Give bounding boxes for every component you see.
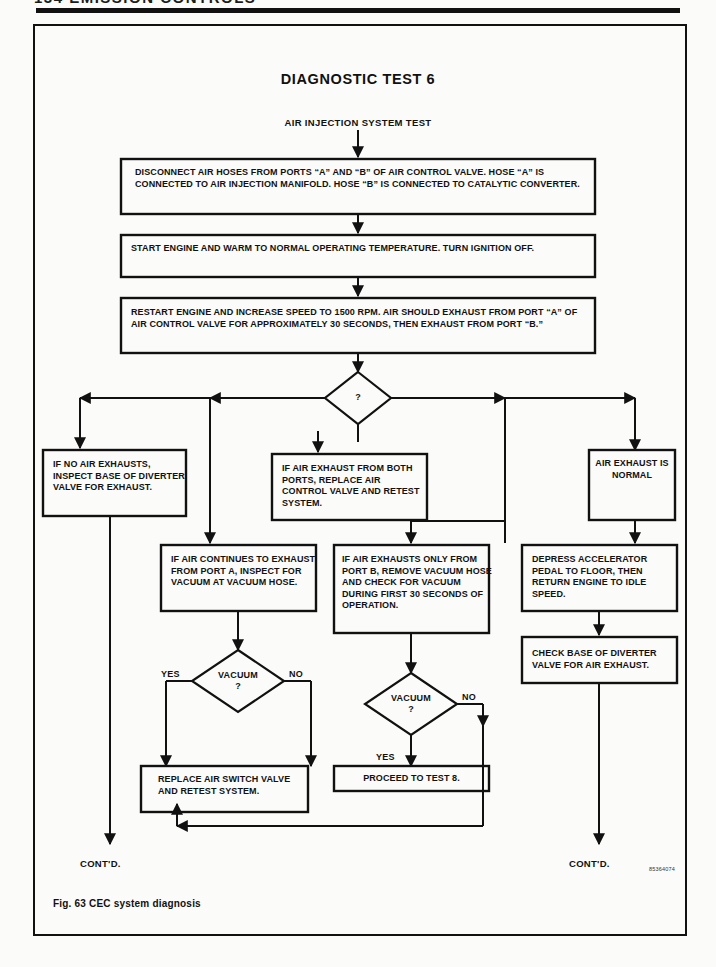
- step-box-restart-engine: RESTART ENGINE AND INCREASE SPEED TO 150…: [131, 307, 591, 330]
- step-box-start-engine: START ENGINE AND WARM TO NORMAL OPERATIN…: [131, 243, 586, 255]
- result-box-proceed-to-test-8: PROCEED TO TEST 8.: [334, 773, 489, 785]
- branch-box-continues-port-a: IF AIR CONTINUES TO EXHAUST FROM PORT A,…: [171, 554, 319, 589]
- vacuum-decision-2-label: VACUUM: [376, 693, 446, 704]
- vacuum-decision-1-question: ?: [203, 681, 273, 692]
- figure-frame: DIAGNOSTIC TEST 6 AIR INJECTION SYSTEM T…: [33, 24, 687, 936]
- branch-box-depress-accelerator: DEPRESS ACCELERATOR PEDAL TO FLOOR, THEN…: [532, 554, 680, 600]
- branch-box-air-exhaust-normal: AIR EXHAUST IS NORMAL: [589, 458, 675, 481]
- test-subtitle: AIR INJECTION SYSTEM TEST: [35, 117, 681, 128]
- branch-box-no-air-exhausts: IF NO AIR EXHAUSTS, INSPECT BASE OF DIVE…: [53, 459, 188, 494]
- vacuum-2-no-label: NO: [462, 692, 476, 702]
- result-box-replace-air-switch-valve: REPLACE AIR SWITCH VALVE AND RETEST SYST…: [158, 774, 308, 797]
- page-header-text: 134 EMISSION CONTROLS: [34, 0, 256, 6]
- figure-caption: Fig. 63 CEC system diagnosis: [53, 898, 201, 909]
- branch-box-both-ports: IF AIR EXHAUST FROM BOTH PORTS, REPLACE …: [282, 463, 428, 509]
- branch-box-check-diverter-base: CHECK BASE OF DIVERTER VALVE FOR AIR EXH…: [532, 648, 682, 671]
- vacuum-1-no-label: NO: [289, 669, 303, 679]
- header-rule: [36, 8, 680, 13]
- vacuum-2-yes-label: YES: [376, 752, 395, 762]
- vacuum-decision-1-label: VACUUM: [203, 670, 273, 681]
- part-number-code: 85364074: [649, 866, 675, 872]
- diagnostic-test-title: DIAGNOSTIC TEST 6: [35, 71, 681, 87]
- vacuum-decision-2-question: ?: [376, 704, 446, 715]
- vacuum-1-yes-label: YES: [161, 669, 180, 679]
- step-box-disconnect-hoses: DISCONNECT AIR HOSES FROM PORTS “A” AND …: [135, 167, 585, 190]
- main-decision-question: ?: [340, 392, 376, 402]
- contd-label-left: CONT'D.: [80, 858, 121, 869]
- branch-box-only-port-b: IF AIR EXHAUSTS ONLY FROM PORT B, REMOVE…: [342, 554, 492, 612]
- contd-label-right: CONT'D.: [569, 858, 610, 869]
